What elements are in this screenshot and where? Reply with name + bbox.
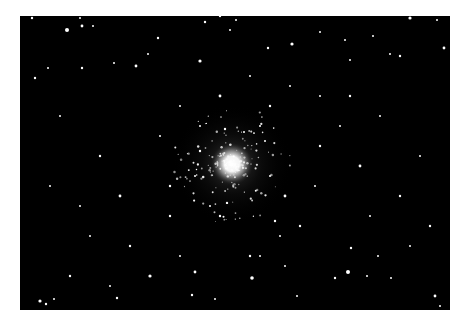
star	[274, 220, 276, 222]
star	[38, 299, 41, 302]
star	[31, 17, 33, 19]
star	[81, 25, 84, 28]
star	[92, 25, 94, 27]
star	[219, 215, 221, 217]
star	[179, 255, 181, 257]
star	[319, 31, 321, 33]
star	[399, 55, 401, 57]
star	[284, 195, 287, 198]
star	[290, 42, 293, 45]
star	[45, 303, 47, 305]
star	[179, 105, 181, 107]
star	[408, 16, 411, 19]
star	[243, 131, 245, 133]
star	[399, 195, 401, 197]
star	[369, 215, 371, 217]
star	[289, 85, 291, 87]
star	[372, 35, 374, 37]
star	[267, 47, 269, 49]
star	[194, 175, 196, 177]
star	[229, 29, 231, 31]
star	[349, 95, 351, 97]
star	[219, 95, 222, 98]
star	[59, 115, 61, 117]
star	[249, 255, 251, 257]
star	[47, 67, 49, 69]
star	[264, 140, 266, 142]
star	[419, 155, 421, 157]
star	[81, 67, 83, 69]
star	[79, 17, 81, 19]
star	[389, 53, 391, 55]
star	[116, 297, 118, 299]
star	[194, 271, 197, 274]
star	[249, 75, 251, 77]
star	[436, 19, 438, 21]
star	[334, 277, 336, 279]
star	[299, 225, 301, 227]
star	[219, 16, 221, 17]
star	[135, 65, 138, 68]
star	[390, 277, 392, 279]
star	[349, 59, 351, 61]
star	[377, 255, 379, 257]
star	[147, 53, 149, 55]
star	[49, 185, 51, 187]
star	[314, 185, 316, 187]
star	[434, 295, 437, 298]
star	[159, 135, 161, 137]
star	[199, 150, 201, 152]
star	[443, 47, 446, 50]
star	[346, 270, 350, 274]
starfield-image	[20, 16, 450, 310]
star	[350, 247, 352, 249]
star	[339, 125, 341, 127]
star	[53, 298, 55, 300]
star	[198, 59, 201, 62]
star	[157, 37, 159, 39]
star	[319, 145, 321, 147]
star	[169, 215, 171, 217]
star	[129, 245, 131, 247]
star	[79, 205, 81, 207]
star	[379, 115, 381, 117]
star	[169, 185, 171, 187]
star	[214, 298, 216, 300]
star	[119, 195, 122, 198]
star	[204, 21, 206, 23]
star	[269, 105, 271, 107]
star	[224, 128, 226, 130]
star	[99, 155, 101, 157]
star	[359, 165, 362, 168]
star	[250, 276, 254, 280]
star	[113, 62, 115, 64]
star	[259, 125, 261, 127]
star	[439, 305, 441, 307]
star	[409, 245, 411, 247]
star	[109, 285, 111, 287]
star	[235, 19, 237, 21]
star	[199, 125, 201, 127]
star	[69, 275, 71, 277]
star	[269, 175, 271, 177]
star	[366, 275, 368, 277]
star	[279, 235, 281, 237]
star	[344, 39, 346, 41]
star	[148, 274, 151, 277]
star	[65, 28, 69, 32]
star	[34, 77, 36, 79]
starfield-icon	[20, 16, 450, 310]
star	[209, 205, 211, 207]
star	[319, 95, 321, 97]
star	[429, 225, 431, 227]
star	[191, 294, 193, 296]
star	[259, 255, 261, 257]
cluster-core	[210, 142, 254, 186]
star	[89, 235, 91, 237]
star	[284, 265, 286, 267]
star	[296, 295, 298, 297]
